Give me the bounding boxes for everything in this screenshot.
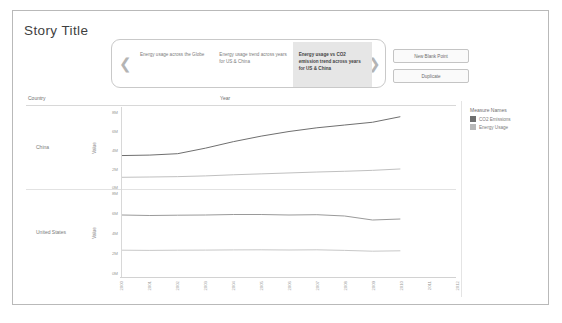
x-tick-label: 2001 [147,281,152,291]
x-axis-line [120,277,456,278]
legend-swatch [470,116,476,122]
panel-label-united-states: United States [36,229,76,237]
story-point-2[interactable]: Energy usage trend across years for US &… [213,42,292,87]
y-tick: 4M [112,231,118,236]
new-blank-point-button[interactable]: New Blank Point [393,49,469,63]
story-frame: Story Title ❮ ❯ Energy usage across the … [12,10,549,305]
y-tick: 2M [112,166,118,171]
line-energy-usage [122,169,400,177]
story-point-navigator: ❮ ❯ Energy usage across the Globe Energy… [111,39,386,88]
story-point-list: Energy usage across the Globe Energy usa… [134,42,372,87]
panel-united-states: United States Value 8M 6M 4M 2M 0M [26,189,456,277]
legend-item-energy-usage[interactable]: Energy Usage [470,124,550,130]
legend-swatch [470,124,476,130]
row-shelf-header: Country [28,95,46,101]
panel-china: China Value 8M 6M 4M 2M 0M [26,107,456,189]
column-shelf-header: Year [220,95,230,101]
x-tick-label: 2012 [455,281,460,291]
header-divider [26,105,456,106]
x-tick-label: 2008 [343,281,348,291]
x-axis-labels: 2000200120022003200420052006200720082009… [120,279,456,313]
legend-title: Measure Names [470,107,550,113]
line-co2-emissions [122,215,400,221]
story-point-actions: New Blank Point Duplicate [393,49,469,89]
duplicate-button[interactable]: Duplicate [393,69,469,83]
chevron-left-icon[interactable]: ❮ [119,54,132,74]
legend-label: CO2 Emissions [479,117,511,122]
plot-china [122,107,456,189]
y-tick: 8M [112,190,118,195]
x-tick-label: 2005 [259,281,264,291]
x-tick-label: 2006 [287,281,292,291]
x-tick-label: 2009 [371,281,376,291]
legend-item-co2-emissions[interactable]: CO2 Emissions [470,116,550,122]
y-tick: 4M [112,147,118,152]
y-tick: 0M [112,271,118,276]
x-tick-label: 2002 [175,281,180,291]
y-axis-title-china: Value [92,142,97,153]
x-tick-label: 2003 [203,281,208,291]
y-tick: 2M [112,251,118,256]
line-co2-emissions [122,117,400,156]
y-axis-ticks-china: 8M 6M 4M 2M 0M [98,107,120,189]
y-tick: 6M [112,210,118,215]
x-tick-label: 2011 [427,281,432,290]
x-tick-label: 2000 [119,281,124,291]
y-axis-ticks-us: 8M 6M 4M 2M 0M [98,189,120,277]
legend-divider [461,101,462,297]
x-tick-label: 2004 [231,281,236,291]
story-point-3[interactable]: Energy usage vs CO2 emission trend acros… [293,42,372,87]
legend-label: Energy Usage [479,125,508,130]
y-axis-title-us: Value [92,227,97,238]
x-tick-label: 2010 [399,281,404,291]
plot-united-states [122,189,456,277]
legend: Measure Names CO2 Emissions Energy Usage [470,107,550,132]
x-tick-label: 2007 [315,281,320,291]
line-energy-usage [122,250,400,251]
panel-label-china: China [36,144,76,152]
y-tick: 6M [112,128,118,133]
page-title: Story Title [24,23,88,38]
story-point-1[interactable]: Energy usage across the Globe [134,42,213,87]
story-dashboard: Story Title ❮ ❯ Energy usage across the … [0,0,562,323]
y-tick: 8M [112,109,118,114]
